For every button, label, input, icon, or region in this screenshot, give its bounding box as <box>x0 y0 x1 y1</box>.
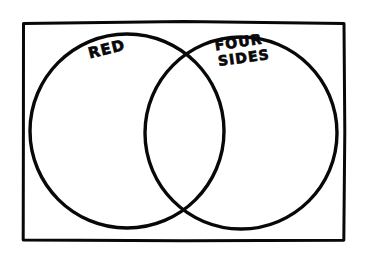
diagram-background <box>0 0 366 263</box>
venn-diagram-figure: RED FOUR SIDES <box>0 0 366 263</box>
venn-diagram-canvas: RED FOUR SIDES <box>0 0 366 263</box>
